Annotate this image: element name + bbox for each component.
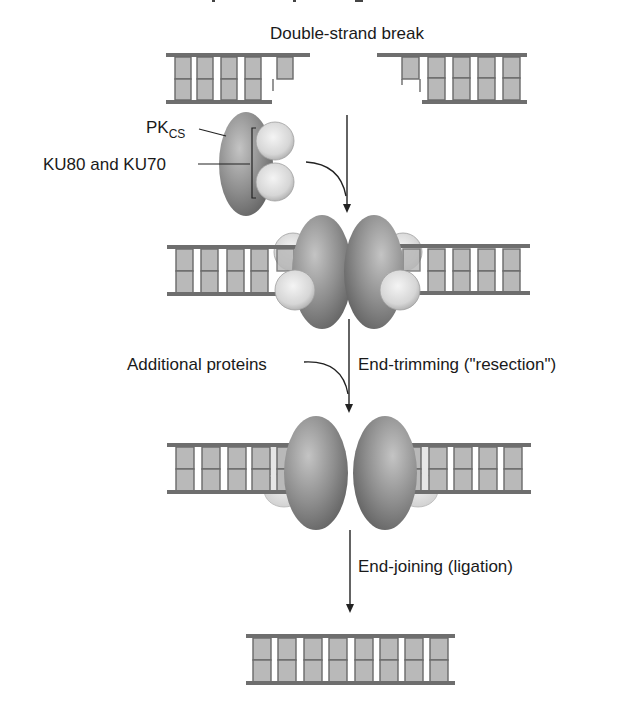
step-label-end-trimming: End-trimming ("resection") — [358, 355, 556, 374]
step-label-double-strand-break: Double-strand break — [270, 24, 425, 43]
curved-arrow-additional-proteins — [304, 362, 348, 394]
nhej-diagram: Double-strand break PKCS KU80 and KU70 — [0, 0, 618, 706]
ku-front-right — [380, 270, 420, 310]
arrowhead-icon — [345, 404, 353, 413]
pkcs-label: PKCS — [146, 118, 185, 141]
arrowhead-icon — [346, 604, 354, 613]
ku70-protein — [256, 163, 294, 201]
dna-end-left-stage3 — [167, 443, 300, 494]
dna-end-right-stage1 — [377, 53, 527, 104]
pkcs-leader-line — [199, 129, 226, 136]
curved-arrow-binding — [306, 162, 346, 196]
ku-front-left — [275, 270, 315, 310]
cutoff-title-remnant — [212, 0, 363, 2]
additional-proteins-label: Additional proteins — [127, 355, 267, 374]
dna-end-right-stage3 — [400, 443, 531, 494]
ku-label: KU80 and KU70 — [43, 155, 166, 174]
step-label-end-joining: End-joining (ligation) — [358, 557, 513, 576]
arrowhead-icon — [343, 204, 351, 213]
ku80-protein — [256, 122, 294, 160]
pkcs-protein-right-stage3 — [353, 416, 417, 530]
dna-repaired — [246, 634, 455, 685]
pkcs-protein-left-stage3 — [284, 416, 348, 530]
dna-end-left-stage1 — [166, 53, 310, 104]
